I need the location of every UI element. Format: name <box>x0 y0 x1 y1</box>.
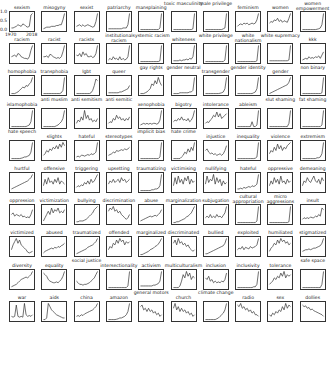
line-series <box>236 12 260 31</box>
line-series <box>42 141 66 160</box>
panel: activism <box>135 258 167 291</box>
panel: ableism <box>232 97 264 130</box>
panel: triggering <box>71 161 103 194</box>
panel: victimized <box>6 225 38 258</box>
panel: toxic masculinity <box>168 0 200 33</box>
line-series <box>172 270 196 289</box>
panel: kkk <box>297 32 329 65</box>
plot-area <box>235 140 261 161</box>
panel: inequality <box>232 129 264 162</box>
plot-area <box>106 75 132 96</box>
panel: male privilege <box>200 0 232 33</box>
panel: church <box>168 290 200 323</box>
plot-area <box>235 269 261 290</box>
line-series <box>236 76 260 95</box>
plot-area <box>106 301 132 322</box>
plot-area <box>41 43 67 64</box>
plot-area <box>235 301 261 322</box>
line-series <box>10 12 34 31</box>
plot-area <box>9 301 35 322</box>
plot-area <box>74 140 100 161</box>
plot-area <box>9 269 35 290</box>
plot-area <box>171 236 197 257</box>
panel: inclusivity <box>232 258 264 291</box>
plot-area <box>300 43 326 64</box>
line-series <box>204 205 228 224</box>
panel: bigotry <box>168 97 200 130</box>
plot-area <box>171 172 197 193</box>
line-series <box>42 173 66 192</box>
line-series <box>236 205 260 224</box>
plot-area <box>267 140 293 161</box>
plot-area <box>267 236 293 257</box>
plot-area <box>235 172 261 193</box>
panel: women empowerment <box>297 0 329 33</box>
line-series <box>42 237 66 256</box>
panel: sex <box>264 290 296 323</box>
plot-area <box>74 11 100 32</box>
line-series <box>268 76 292 95</box>
panel: patriarchy <box>103 0 135 33</box>
panel: intolerance <box>200 97 232 130</box>
line-series <box>236 44 260 63</box>
plot-area <box>74 236 100 257</box>
plot-area <box>41 140 67 161</box>
panel: abuse <box>135 193 167 226</box>
panel: violence <box>264 129 296 162</box>
line-series <box>107 44 131 63</box>
line-series <box>204 12 228 31</box>
panel-title: islamophobia <box>2 102 42 107</box>
panel: exploited <box>232 225 264 258</box>
plot-area <box>171 204 197 225</box>
plot-area <box>203 43 229 64</box>
panel: multiculturalism <box>168 258 200 291</box>
panel: hate speech <box>6 129 38 162</box>
panel: white nationalism <box>232 32 264 65</box>
line-series <box>10 141 34 160</box>
line-series <box>75 76 99 95</box>
panel: offended <box>103 225 135 258</box>
panel: victimising <box>168 161 200 194</box>
panel: hurtful <box>6 161 38 194</box>
line-series <box>42 44 66 63</box>
panel: abused <box>38 225 70 258</box>
line-series <box>42 76 66 95</box>
panel: white supremacy <box>264 32 296 65</box>
plot-area <box>300 75 326 96</box>
plot-area <box>171 140 197 161</box>
plot-area <box>41 75 67 96</box>
panel: islamophobia <box>6 97 38 130</box>
panel: subjugation <box>200 193 232 226</box>
panel: discrimination <box>103 193 135 226</box>
line-series <box>301 12 325 31</box>
plot-area <box>235 75 261 96</box>
plot-area <box>203 140 229 161</box>
panel: gender <box>264 64 296 97</box>
line-series <box>107 141 131 160</box>
y-tick-label: 1.0 <box>0 9 7 14</box>
panel: oppression <box>6 193 38 226</box>
plot-area <box>74 204 100 225</box>
line-series <box>139 302 163 321</box>
plot-area <box>9 204 35 225</box>
line-series <box>172 76 196 95</box>
line-series <box>107 76 131 95</box>
panel: hateful <box>71 129 103 162</box>
panel-title: tolerance <box>260 263 300 268</box>
panel-title: amazon <box>99 295 139 300</box>
panel: gender neutral <box>168 64 200 97</box>
panel: racist <box>38 32 70 65</box>
panel: marginalized <box>135 225 167 258</box>
panel: victimization <box>38 193 70 226</box>
panel-title: ableism <box>228 102 268 107</box>
line-series <box>301 141 325 160</box>
line-series <box>139 270 163 289</box>
panel: institutional racism <box>103 32 135 65</box>
line-series <box>75 12 99 31</box>
panel: marginalization <box>168 193 200 226</box>
panel: diversity <box>6 258 38 291</box>
plot-area <box>171 11 197 32</box>
plot-area <box>267 43 293 64</box>
panel: anti muslim <box>38 97 70 130</box>
panel: micro aggressions <box>264 193 296 226</box>
